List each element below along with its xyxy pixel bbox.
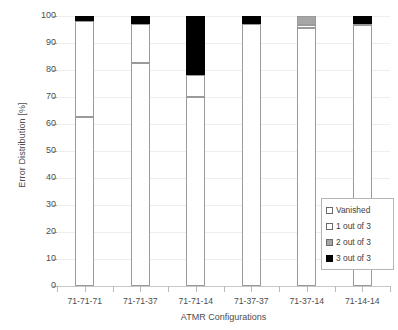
x-tick-mark [362, 286, 363, 292]
legend-label: Vanished [336, 205, 370, 215]
x-tick-mark [140, 286, 141, 292]
legend-label: 1 out of 3 [336, 221, 371, 231]
segment-1-out-of-3[interactable] [186, 75, 205, 97]
bar-stack [131, 16, 150, 286]
segment-3-out-of-3[interactable] [242, 16, 261, 24]
x-tick-label: 71-71-37 [123, 296, 157, 306]
gray-square-icon [326, 239, 333, 246]
bar-column[interactable] [297, 16, 316, 286]
bar-column[interactable] [131, 16, 150, 286]
y-tick-label: 0 [16, 281, 56, 290]
x-tick-boundary-mark [57, 286, 58, 292]
segment-1-out-of-3[interactable] [131, 24, 150, 63]
y-tick-label: 30 [16, 200, 56, 209]
x-axis-title: ATMR Configurations [57, 312, 390, 322]
gridline [57, 124, 390, 125]
segment-vanished[interactable] [297, 28, 316, 286]
gridline [57, 151, 390, 152]
bar-stack [186, 16, 205, 286]
x-tick-mark [196, 286, 197, 292]
bar-column[interactable] [75, 16, 94, 286]
gridline [57, 16, 390, 17]
legend-label: 3 out of 3 [336, 253, 371, 263]
x-tick-label: 71-71-14 [179, 296, 213, 306]
segment-3-out-of-3[interactable] [131, 16, 150, 24]
x-tick-mark [85, 286, 86, 292]
y-tick-label: 10 [16, 254, 56, 263]
bar-column[interactable] [242, 16, 261, 286]
segment-vanished[interactable] [242, 24, 261, 286]
x-tick-boundary-mark [168, 286, 169, 292]
white-square-icon [326, 207, 333, 214]
x-tick-boundary-mark [390, 286, 391, 292]
x-tick-boundary-mark [224, 286, 225, 292]
x-tick-mark [307, 286, 308, 292]
x-tick-mark [251, 286, 252, 292]
gridline [57, 97, 390, 98]
chart-legend: Vanished 1 out of 3 2 out of 3 3 out of … [321, 198, 394, 270]
y-tick-label: 50 [16, 146, 56, 155]
gridline [57, 178, 390, 179]
legend-item-3-out-of-3[interactable]: 3 out of 3 [326, 250, 390, 266]
y-tick-label: 40 [16, 173, 56, 182]
segment-1-out-of-3[interactable] [297, 25, 316, 28]
y-tick-label: 90 [16, 38, 56, 47]
x-tick-label: 71-37-37 [234, 296, 268, 306]
stacked-bar-chart: Error Distribution [%] ATMR Configuratio… [0, 0, 398, 330]
y-tick-label: 70 [16, 92, 56, 101]
segment-3-out-of-3[interactable] [353, 16, 372, 24]
segment-vanished[interactable] [131, 63, 150, 286]
bar-column[interactable] [186, 16, 205, 286]
segment-3-out-of-3[interactable] [75, 16, 94, 21]
y-tick-label: 80 [16, 65, 56, 74]
legend-item-2-out-of-3[interactable]: 2 out of 3 [326, 234, 390, 250]
segment-vanished[interactable] [186, 97, 205, 286]
y-tick-label: 20 [16, 227, 56, 236]
x-tick-boundary-mark [279, 286, 280, 292]
segment-2-out-of-3[interactable] [297, 16, 316, 25]
y-tick-label: 100 [16, 11, 56, 20]
legend-item-1-out-of-3[interactable]: 1 out of 3 [326, 218, 390, 234]
black-square-icon [326, 255, 333, 262]
x-tick-label: 71-37-14 [290, 296, 324, 306]
gridline [57, 70, 390, 71]
x-tick-label: 71-71-71 [68, 296, 102, 306]
bar-stack [242, 16, 261, 286]
segment-vanished[interactable] [75, 117, 94, 286]
bar-stack [75, 16, 94, 286]
gridline [57, 43, 390, 44]
segment-1-out-of-3[interactable] [75, 21, 94, 117]
legend-item-vanished[interactable]: Vanished [326, 202, 390, 218]
white-square-icon [326, 223, 333, 230]
y-tick-label: 60 [16, 119, 56, 128]
x-tick-label: 71-14-14 [345, 296, 379, 306]
x-tick-boundary-mark [113, 286, 114, 292]
bar-stack [297, 16, 316, 286]
segment-3-out-of-3[interactable] [186, 16, 205, 75]
x-tick-boundary-mark [335, 286, 336, 292]
legend-label: 2 out of 3 [336, 237, 371, 247]
